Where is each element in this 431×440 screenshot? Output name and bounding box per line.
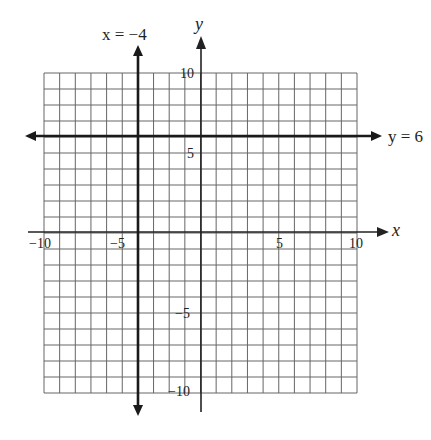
tick-y-10: 10 [180, 66, 194, 81]
vertical-line-label: x = −4 [102, 25, 147, 44]
y-axis-label: y [193, 14, 203, 34]
horizontal-line-label: y = 6 [388, 127, 423, 146]
tick-y-5: 5 [187, 146, 194, 161]
arrow-right-icon [371, 131, 382, 141]
x-axis-arrow-icon [377, 227, 389, 237]
arrow-down-icon [133, 405, 143, 416]
tick-x-neg10: −10 [29, 236, 51, 251]
tick-y-neg10: −10 [168, 384, 190, 399]
tick-x-10: 10 [349, 236, 363, 251]
tick-y-neg5: −5 [175, 306, 190, 321]
coordinate-plane: x = −4 y y = 6 x −10 −5 5 10 10 5 −5 −10 [0, 0, 431, 440]
x-axis-label: x [391, 220, 400, 240]
y-axis-arrow-icon [196, 36, 206, 49]
tick-x-neg5: −5 [110, 236, 125, 251]
arrow-up-icon [133, 45, 143, 56]
tick-x-5: 5 [276, 236, 283, 251]
arrow-left-icon [25, 131, 36, 141]
